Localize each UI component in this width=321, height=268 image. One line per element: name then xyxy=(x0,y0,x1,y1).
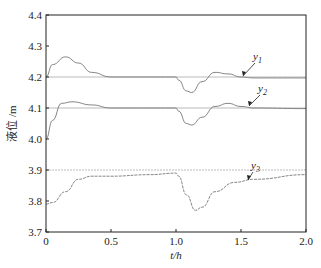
y-tick-label: 4.0 xyxy=(28,133,42,145)
x-tick-label: 0 xyxy=(43,235,49,247)
series-annotation: y2 xyxy=(257,82,267,97)
x-tick-label: 2.0 xyxy=(299,235,313,247)
y-tick-label: 4.4 xyxy=(28,9,42,21)
x-tick-label: 1.0 xyxy=(169,235,183,247)
x-tick-label: 1.5 xyxy=(234,235,248,247)
line-chart: 00.51.01.52.03.73.83.94.04.14.24.34.4t/h… xyxy=(0,0,321,268)
series-annotation: y3 xyxy=(250,159,260,174)
annotation-arrow xyxy=(249,95,260,106)
y-tick-label: 4.2 xyxy=(28,71,42,83)
series-y3 xyxy=(46,173,306,210)
y-tick-label: 3.9 xyxy=(28,164,42,176)
annotation-arrow xyxy=(243,63,255,76)
series-annotation: y1 xyxy=(252,50,262,65)
y-tick-label: 3.7 xyxy=(28,226,42,238)
series-y2 xyxy=(46,102,306,139)
y-tick-label: 4.1 xyxy=(28,102,42,114)
y-axis-label: 液位 /m xyxy=(5,105,18,142)
y-tick-label: 4.3 xyxy=(28,40,42,52)
series-y1 xyxy=(46,57,306,93)
plot-frame xyxy=(46,15,306,232)
x-tick-label: 0.5 xyxy=(104,235,118,247)
y-tick-label: 3.8 xyxy=(28,195,42,207)
x-axis-label: t/h xyxy=(170,249,182,261)
